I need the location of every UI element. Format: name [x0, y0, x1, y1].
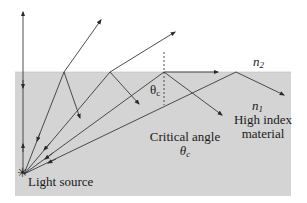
theta-c-normal-label: θc — [150, 83, 160, 100]
critical-angle-symbol: θc — [145, 144, 225, 161]
n2-subscript: 2 — [260, 60, 265, 70]
light-source-label: Light source — [28, 175, 93, 189]
light-source-icon: ✳ — [17, 166, 28, 180]
critical-angle-label: Critical angle θc — [145, 130, 225, 161]
critical-theta-subscript: c — [186, 149, 190, 159]
high-index-material-label: High index material — [228, 113, 298, 141]
high-index-line2: material — [228, 127, 298, 141]
high-index-line1: High index — [228, 113, 298, 127]
ray-refracted-1 — [64, 20, 101, 72]
ray-refracted-2 — [110, 32, 175, 72]
n2-label: n2 — [253, 55, 264, 72]
critical-angle-text: Critical angle — [145, 130, 225, 144]
theta-subscript: c — [156, 88, 160, 98]
